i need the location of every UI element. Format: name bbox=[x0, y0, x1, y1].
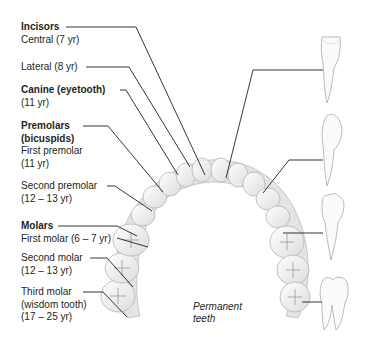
label-canine-age: (11 yr) bbox=[21, 97, 49, 108]
label-molars: Molars First molar (6 – 7 yr) bbox=[21, 220, 111, 245]
side-tooth-canine bbox=[322, 114, 342, 186]
label-second-molar-age: (12 – 13 yr) bbox=[21, 265, 72, 276]
label-second-molar: Second molar (12 – 13 yr) bbox=[21, 252, 83, 277]
side-tooth-incisor bbox=[321, 37, 340, 103]
arch-teeth bbox=[101, 158, 310, 312]
leader-lateral bbox=[86, 67, 190, 167]
label-second-premolar: Second premolar (12 – 13 yr) bbox=[21, 180, 97, 205]
heading-canine: Canine (eyetooth) bbox=[21, 84, 105, 95]
subheading-bicuspids: (bicuspids) bbox=[21, 133, 74, 144]
label-lateral: Lateral (8 yr) bbox=[21, 61, 78, 74]
label-first-premolar-age: (11 yr) bbox=[21, 158, 49, 169]
label-third-molar: Third molar (wisdom tooth) (17 – 25 yr) bbox=[21, 286, 87, 324]
label-second-premolar-age: (12 – 13 yr) bbox=[21, 193, 72, 204]
caption-line-2: teeth bbox=[193, 313, 215, 324]
label-third-molar-age: (17 – 25 yr) bbox=[21, 311, 72, 322]
tooth-central-left bbox=[192, 158, 212, 182]
label-second-molar-name: Second molar bbox=[21, 252, 83, 263]
side-tooth-molar bbox=[320, 277, 348, 330]
label-premolars: Premolars (bicuspids) First premolar (11… bbox=[21, 120, 83, 170]
label-third-molar-name: Third molar bbox=[21, 286, 72, 297]
label-first-premolar: First premolar bbox=[21, 145, 83, 156]
heading-incisors: Incisors bbox=[21, 21, 59, 32]
label-incisors: Incisors Central (7 yr) bbox=[21, 21, 79, 46]
heading-premolars: Premolars bbox=[21, 120, 70, 131]
caption-line-1: Permanent bbox=[193, 301, 242, 312]
label-first-molar: First molar (6 – 7 yr) bbox=[21, 233, 111, 244]
tooth-second-premolar-right bbox=[266, 206, 290, 228]
caption-permanent-teeth: Permanent teeth bbox=[193, 301, 242, 325]
label-third-molar-alt: (wisdom tooth) bbox=[21, 299, 87, 310]
label-central: Central (7 yr) bbox=[21, 34, 79, 45]
label-second-premolar-name: Second premolar bbox=[21, 180, 97, 191]
side-tooth-premolar bbox=[322, 193, 344, 260]
heading-molars: Molars bbox=[21, 220, 53, 231]
leader-right-incisor bbox=[226, 70, 323, 178]
label-canine: Canine (eyetooth) (11 yr) bbox=[21, 84, 105, 109]
